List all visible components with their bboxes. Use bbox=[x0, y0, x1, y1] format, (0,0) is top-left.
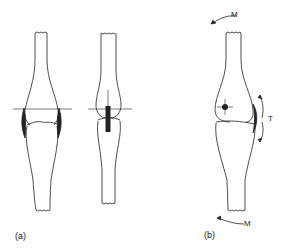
moment-arrow-bottom bbox=[218, 218, 244, 224]
capsule-tension bbox=[253, 104, 257, 133]
ligament-bar bbox=[106, 106, 111, 132]
panel-b-label: (b) bbox=[204, 230, 215, 240]
tension-arrow-up bbox=[260, 96, 263, 118]
moment-label-bottom: M bbox=[244, 219, 251, 228]
diagram-canvas bbox=[0, 0, 285, 248]
capsule-right bbox=[57, 108, 61, 138]
tension-label: T bbox=[268, 114, 273, 123]
joint-loaded-view bbox=[215, 32, 255, 211]
panel-a-label: (a) bbox=[15, 231, 26, 241]
moment-label-top: M bbox=[231, 10, 238, 19]
capsule-left bbox=[22, 108, 26, 138]
joint-front-view bbox=[25, 32, 59, 211]
